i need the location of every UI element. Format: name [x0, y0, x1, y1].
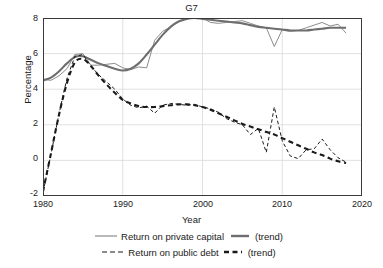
- legend-row-public-debt: Return on public debt (trend): [0, 244, 383, 260]
- legend-row-private-capital: Return on private capital (trend): [0, 228, 383, 244]
- legend-swatch-dashed-thick-icon: [222, 248, 244, 256]
- legend-label-private-capital: Return on private capital: [121, 231, 224, 242]
- legend-swatch-solid-thick-icon: [229, 232, 251, 240]
- x-tick-2010: 2010: [262, 199, 302, 209]
- x-tick-2020: 2020: [342, 199, 382, 209]
- legend-label-private-capital-trend: (trend): [255, 231, 283, 242]
- x-tick-1990: 1990: [103, 199, 143, 209]
- legend-swatch-solid-thin-icon: [95, 232, 117, 240]
- x-tick-2000: 2000: [183, 199, 223, 209]
- legend: Return on private capital (trend) Return…: [0, 228, 383, 260]
- figure: G7 8 6 4 2 0 -2 Percentage 1980 1990 200…: [0, 0, 383, 268]
- legend-label-public-debt: Return on public debt: [128, 247, 218, 258]
- legend-label-public-debt-trend: (trend): [248, 247, 276, 258]
- legend-swatch-dashed-thin-icon: [102, 248, 124, 256]
- x-axis-label: Year: [0, 214, 383, 225]
- x-tick-1980: 1980: [23, 199, 63, 209]
